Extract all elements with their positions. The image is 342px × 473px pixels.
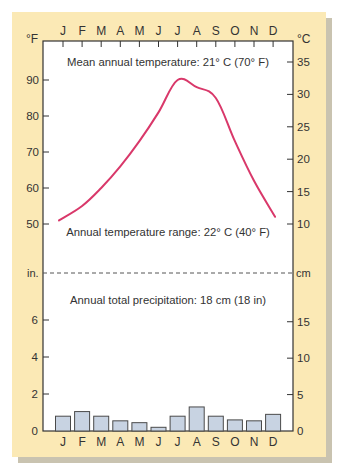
month-label: S: [212, 435, 220, 449]
month-label: A: [193, 24, 201, 38]
climograph: JFMAMJJASOND JFMAMJJASOND 5060708090 101…: [0, 0, 342, 473]
month-label: F: [78, 435, 85, 449]
month-label: M: [96, 435, 106, 449]
precipitation-bar: [94, 416, 109, 431]
month-label: N: [250, 435, 259, 449]
cm-tick: 5: [297, 389, 303, 401]
fahrenheit-tick: 80: [26, 110, 39, 122]
celsius-tick: 25: [297, 121, 310, 133]
inches-tick: 2: [32, 388, 38, 400]
inches-tick: 4: [32, 351, 39, 363]
month-label: N: [250, 24, 259, 38]
precipitation-bar: [132, 423, 147, 431]
celsius-tick: 10: [297, 218, 310, 230]
fahrenheit-tick: 90: [26, 74, 39, 86]
bottom-month-axis: JFMAMJJASOND: [60, 435, 278, 449]
month-label: J: [156, 24, 162, 38]
cm-tick: 10: [297, 352, 310, 364]
month-label: M: [134, 435, 144, 449]
fahrenheit-unit-label: °F: [26, 32, 38, 46]
cm-unit-label: cm: [296, 267, 311, 279]
precipitation-bar: [247, 421, 262, 431]
mean-temperature-label: Mean annual temperature: 21° C (70° F): [67, 56, 269, 68]
precipitation-bar: [56, 416, 71, 431]
month-label: A: [116, 24, 124, 38]
month-label: M: [134, 24, 144, 38]
month-label: A: [116, 435, 124, 449]
fahrenheit-tick: 50: [26, 218, 39, 230]
precipitation-bar: [189, 407, 204, 431]
celsius-tick: 35: [297, 56, 310, 68]
celsius-unit-label: °C: [297, 32, 311, 46]
precipitation-bar: [75, 412, 90, 431]
precipitation-total-label: Annual total precipitation: 18 cm (18 in…: [70, 294, 266, 306]
month-label: J: [60, 435, 66, 449]
inches-tick: 6: [32, 314, 38, 326]
month-label: S: [212, 24, 220, 38]
month-label: J: [175, 24, 181, 38]
month-label: J: [156, 435, 162, 449]
month-label: O: [230, 24, 239, 38]
month-label: D: [269, 435, 278, 449]
fahrenheit-tick: 70: [26, 146, 39, 158]
cm-tick: 15: [297, 316, 310, 328]
celsius-tick: 20: [297, 153, 310, 165]
month-label: F: [78, 24, 85, 38]
month-label: A: [193, 435, 201, 449]
month-label: D: [269, 24, 278, 38]
precipitation-bar: [208, 416, 223, 431]
inches-tick: 0: [32, 425, 38, 437]
celsius-tick: 30: [297, 88, 310, 100]
month-label: O: [230, 435, 239, 449]
inches-unit-label: in.: [27, 267, 39, 279]
cm-tick: 0: [297, 425, 303, 437]
precipitation-bar: [227, 420, 242, 431]
precipitation-bar: [113, 421, 128, 431]
precipitation-bar: [170, 416, 185, 431]
precipitation-bar: [266, 414, 281, 431]
precipitation-bar: [151, 427, 166, 431]
month-label: M: [96, 24, 106, 38]
month-label: J: [175, 435, 181, 449]
celsius-tick: 15: [297, 186, 310, 198]
fahrenheit-tick: 60: [26, 182, 39, 194]
temperature-range-label: Annual temperature range: 22° C (40° F): [66, 226, 270, 238]
month-label: J: [60, 24, 66, 38]
